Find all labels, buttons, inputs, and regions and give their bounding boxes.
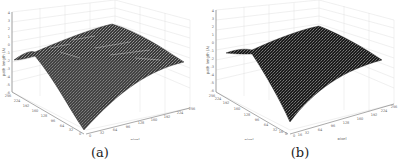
svg-text:160: 160 [32,109,39,113]
svg-text:0: 0 [293,134,295,138]
svg-text:256: 256 [391,105,398,109]
svg-text:224: 224 [381,109,388,113]
svg-text:96: 96 [51,119,55,123]
svg-text:-4: -4 [211,73,215,77]
svg-text:-6: -6 [211,89,215,93]
svg-text:64: 64 [264,123,269,127]
right-axis-label-b: pixel [338,136,347,140]
svg-text:3: 3 [212,17,214,21]
panel-a: 432 10-1 -2-3-4 -5-6 path length (λ) 256… [0,0,204,167]
surface-b [226,26,382,122]
svg-text:-5: -5 [211,81,215,85]
svg-text:128: 128 [244,113,251,117]
right-axis-label-a: pixel [131,137,140,140]
svg-text:-2: -2 [7,59,11,63]
svg-text:96: 96 [331,124,335,128]
svg-text:16: 16 [279,130,283,134]
svg-text:2: 2 [8,27,10,31]
svg-text:4: 4 [8,11,11,15]
caption-b: (b) [280,145,320,160]
svg-text:32: 32 [273,128,277,132]
svg-text:2: 2 [212,25,214,29]
svg-text:96: 96 [255,118,259,122]
surface-plot-a: 432 10-1 -2-3-4 -5-6 path length (λ) 256… [0,0,204,140]
svg-text:192: 192 [164,115,171,119]
svg-text:64: 64 [60,124,65,128]
svg-text:-4: -4 [7,75,11,79]
svg-text:32: 32 [305,131,309,135]
svg-text:-1: -1 [7,51,11,55]
svg-text:192: 192 [23,104,30,108]
svg-text:-3: -3 [7,67,11,71]
svg-text:224: 224 [215,97,222,101]
svg-text:0: 0 [212,41,214,45]
svg-text:192: 192 [371,113,378,117]
z-axis-label-b: path length (λ) [205,45,210,74]
svg-text:4: 4 [212,9,215,13]
svg-text:1: 1 [212,33,214,37]
svg-text:128: 128 [138,121,145,125]
surface-plot-b: 432 10-1 -2-3-4 -5-6 path length (λ) 256… [204,0,408,140]
svg-text:3: 3 [8,19,10,23]
svg-text:160: 160 [234,107,241,111]
caption-a: (a) [80,145,120,160]
svg-text:160: 160 [357,117,364,121]
svg-text:-1: -1 [211,49,215,53]
svg-text:224: 224 [177,111,184,115]
svg-text:-5: -5 [7,83,11,87]
svg-text:256: 256 [189,107,196,111]
svg-text:32: 32 [100,131,104,135]
svg-text:256: 256 [5,94,12,98]
left-axis-label-a: pixel [46,139,55,140]
svg-text:160: 160 [151,118,158,122]
panel-b: 432 10-1 -2-3-4 -5-6 path length (λ) 256… [204,0,408,167]
svg-text:1: 1 [8,35,10,39]
svg-text:224: 224 [14,99,21,103]
svg-text:16: 16 [298,133,302,137]
svg-text:128: 128 [41,114,48,118]
svg-text:0: 0 [79,132,81,136]
svg-text:64: 64 [318,128,323,132]
z-axis-label-a: path length (λ) [1,47,6,76]
left-axis-label-b: pixel [245,137,254,140]
svg-text:192: 192 [223,101,230,105]
svg-text:96: 96 [126,125,130,129]
svg-text:0: 0 [285,132,287,136]
svg-text:-2: -2 [211,57,215,61]
svg-text:0: 0 [8,43,10,47]
svg-text:32: 32 [69,128,73,132]
svg-text:-3: -3 [211,65,215,69]
svg-text:0: 0 [89,134,91,138]
svg-text:128: 128 [343,121,350,125]
svg-text:64: 64 [113,128,118,132]
